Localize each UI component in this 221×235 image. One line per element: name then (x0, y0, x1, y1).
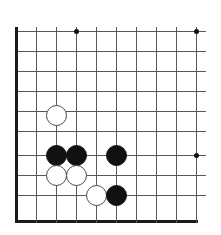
star-top-right (194, 29, 199, 34)
grid-line-horizontal-5 (16, 131, 206, 132)
black-stone-2[interactable] (66, 145, 87, 166)
grid-line-vertical-6 (136, 27, 137, 223)
white-stone-1[interactable] (46, 105, 67, 126)
star-right-middle (194, 153, 199, 158)
grid-line-horizontal-2 (16, 71, 206, 72)
black-stone-1[interactable] (46, 145, 67, 166)
board-edge-left (15, 27, 18, 223)
black-stone-4[interactable] (106, 185, 127, 206)
grid-line-horizontal-1 (16, 51, 206, 52)
grid-line-vertical-3 (76, 27, 77, 223)
black-stone-3[interactable] (106, 145, 127, 166)
white-stone-2[interactable] (46, 165, 67, 186)
grid-line-vertical-8 (176, 27, 177, 223)
go-board-diagram (0, 0, 221, 235)
grid-line-vertical-7 (156, 27, 157, 223)
star-top-left (74, 29, 79, 34)
grid-line-horizontal-4 (16, 111, 206, 112)
board-edge-bottom (16, 220, 198, 223)
white-stone-4[interactable] (86, 185, 107, 206)
grid-line-vertical-1 (36, 27, 37, 223)
goban-grid[interactable] (0, 0, 221, 235)
white-stone-3[interactable] (66, 165, 87, 186)
grid-line-vertical-9 (196, 27, 197, 223)
grid-line-horizontal-7 (16, 175, 206, 176)
grid-line-horizontal-0 (16, 31, 206, 32)
grid-line-horizontal-3 (16, 91, 206, 92)
